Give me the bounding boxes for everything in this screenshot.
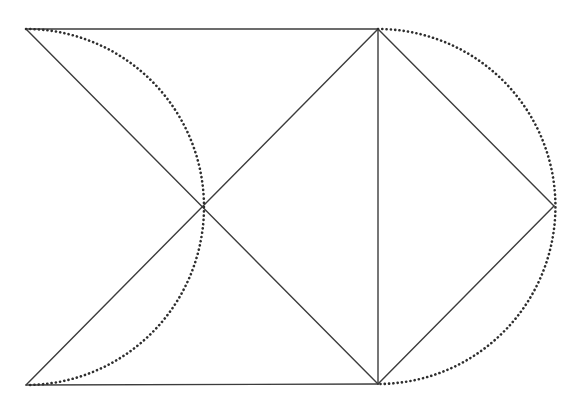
diagram-background [0, 0, 581, 406]
segment-bottom-edge [26, 384, 378, 385]
geometric-diagram [0, 0, 581, 406]
